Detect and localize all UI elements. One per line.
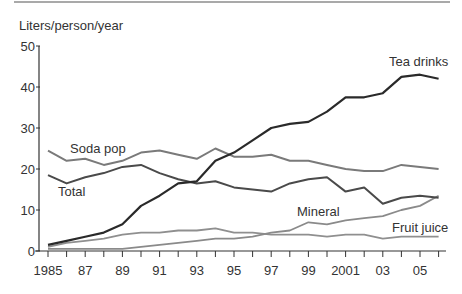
x-tick-label: 95: [227, 263, 241, 278]
y-axis-label: Liters/person/year: [19, 18, 124, 33]
x-tick-label: 97: [264, 263, 278, 278]
series-group: [48, 75, 439, 249]
x-tick-label: 99: [301, 263, 315, 278]
y-tick-label: 30: [21, 121, 35, 136]
x-tick-label: 2001: [331, 263, 360, 278]
x-tick-label: 89: [115, 263, 129, 278]
y-tick-label: 10: [21, 203, 35, 218]
x-tick-label: 03: [376, 263, 390, 278]
series-label-mineral: Mineral: [297, 204, 340, 219]
series-line-tea-drinks: [48, 75, 439, 245]
series-label-tea-drinks: Tea drinks: [389, 54, 449, 69]
x-tick-label: 91: [152, 263, 166, 278]
x-tick-label: 87: [78, 263, 92, 278]
x-tick-label: 05: [413, 263, 427, 278]
y-tick-label: 40: [21, 80, 35, 95]
x-tick-label: 93: [190, 263, 204, 278]
series-line-mineral: [48, 196, 439, 249]
y-tick-label: 50: [21, 39, 35, 54]
series-label-fruit-juice: Fruit juice: [392, 220, 448, 235]
series-labels: Tea drinksSoda popTotalMineralFruit juic…: [58, 54, 449, 235]
series-label-soda-pop: Soda pop: [70, 141, 126, 156]
y-tick-label: 20: [21, 162, 35, 177]
line-chart: Liters/person/year 010203040501985878991…: [0, 0, 462, 294]
x-tick-label: 1985: [34, 263, 63, 278]
series-label-total: Total: [58, 184, 86, 199]
y-tick-label: 0: [28, 244, 35, 259]
